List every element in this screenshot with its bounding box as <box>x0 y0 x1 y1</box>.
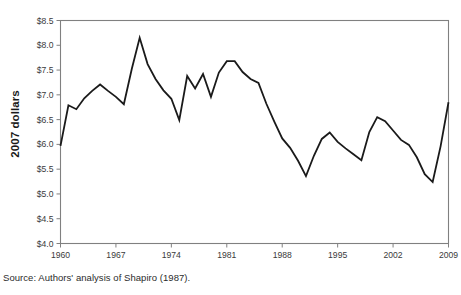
line-chart: $4.0$4.5$5.0$5.5$6.0$6.5$7.0$7.5$8.0$8.5… <box>0 0 461 265</box>
y-tick-label: $7.5 <box>37 65 54 75</box>
x-tick-label: 1967 <box>106 250 125 260</box>
data-series-line <box>61 38 449 182</box>
y-tick-label: $8.5 <box>37 16 54 26</box>
x-tick-label: 1981 <box>217 250 236 260</box>
y-tick-label: $4.5 <box>37 214 54 224</box>
x-tick-label: 1995 <box>328 250 347 260</box>
x-tick-label: 2002 <box>384 250 403 260</box>
y-tick-label: $6.5 <box>37 115 54 125</box>
plot-frame <box>61 21 449 244</box>
y-tick-label: $8.0 <box>37 40 54 50</box>
y-tick-label: $7.0 <box>37 90 54 100</box>
figure-container: 2007 dollars $4.0$4.5$5.0$5.5$6.0$6.5$7.… <box>0 0 461 295</box>
y-tick-label: $4.0 <box>37 239 54 249</box>
x-tick-label: 1974 <box>162 250 181 260</box>
y-tick-label: $5.0 <box>37 189 54 199</box>
x-tick-label: 2009 <box>439 250 458 260</box>
x-tick-label: 1960 <box>51 250 70 260</box>
y-tick-label: $5.5 <box>37 164 54 174</box>
x-tick-label: 1988 <box>273 250 292 260</box>
y-tick-label: $6.0 <box>37 139 54 149</box>
source-note: Source: Authors' analysis of Shapiro (19… <box>3 272 190 283</box>
